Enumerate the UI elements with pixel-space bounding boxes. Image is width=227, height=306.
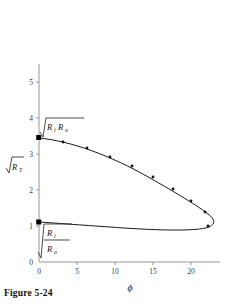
annotation-lower-numerator: R — [46, 228, 53, 238]
x-axis-title: ϕ — [127, 282, 132, 293]
annotation-upper-sub1: i — [54, 127, 56, 133]
axis-lines — [39, 64, 220, 262]
data-point — [152, 176, 155, 179]
annotation-lower: R i R o — [38, 224, 72, 258]
y-axis-title-base: R — [11, 162, 18, 172]
y-tick-label-1: 1 — [29, 222, 33, 231]
annotation-upper-r2: R — [57, 122, 64, 132]
plot-area: 5 4 3 2 1 0 0 5 10 15 20 — [0, 0, 227, 306]
y-tick-label-0: 0 — [29, 258, 33, 267]
x-tick-label-15: 15 — [149, 267, 157, 276]
endpoint-upper — [36, 135, 41, 140]
x-tick-label-10: 10 — [111, 267, 119, 276]
data-point — [204, 211, 207, 214]
data-markers-upper — [62, 141, 210, 228]
data-point — [172, 188, 175, 191]
x-tick-label-0: 0 — [37, 267, 41, 276]
data-point — [131, 165, 134, 168]
annotation-lower-numerator-sub: i — [54, 233, 56, 239]
annotation-upper: R i R o — [40, 118, 84, 137]
data-point — [190, 200, 193, 203]
data-point — [109, 156, 112, 159]
y-axis-ticks: 5 4 3 2 1 0 — [29, 78, 39, 267]
y-tick-label-3: 3 — [29, 150, 33, 159]
figure-container: 5 4 3 2 1 0 0 5 10 15 20 — [0, 0, 227, 306]
data-point — [62, 141, 65, 144]
locus-curve — [39, 138, 214, 230]
data-point — [86, 147, 89, 150]
endpoint-lower — [36, 220, 41, 225]
y-axis-title: R T — [6, 157, 24, 173]
annotation-upper-sub2: o — [65, 127, 68, 133]
x-axis-ticks: 0 5 10 15 20 — [37, 262, 195, 276]
annotation-upper-r1: R — [46, 122, 53, 132]
x-tick-label-20: 20 — [187, 267, 195, 276]
x-tick-label-5: 5 — [75, 267, 79, 276]
y-axis-title-subscript: T — [19, 167, 23, 173]
y-tick-label-2: 2 — [29, 186, 33, 195]
y-tick-label-5: 5 — [29, 78, 33, 87]
annotation-lower-denominator-sub: o — [54, 249, 57, 255]
y-tick-label-4: 4 — [29, 114, 33, 123]
data-point — [207, 225, 210, 228]
figure-caption: Figure 5-24 — [4, 288, 53, 298]
annotation-lower-denominator: R — [46, 244, 53, 254]
